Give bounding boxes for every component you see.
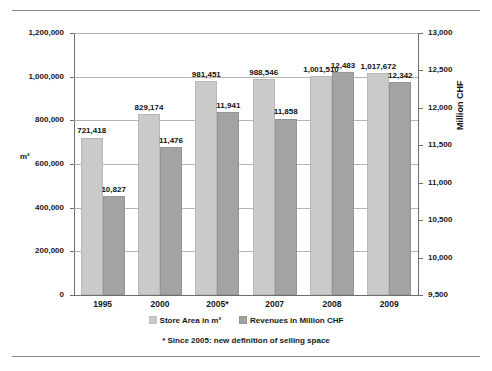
bar-label-revenues: 10,827 bbox=[84, 185, 144, 194]
bar-label-store-area: 1,017,672 bbox=[343, 62, 413, 71]
right-axis-tick-label: 11,000 bbox=[428, 178, 488, 187]
right-axis-tick-label: 11,500 bbox=[428, 140, 488, 149]
bar-label-revenues: 12,342 bbox=[370, 71, 430, 80]
bar-revenues bbox=[275, 119, 297, 296]
right-axis-tick-label: 10,500 bbox=[428, 215, 488, 224]
left-axis-tick bbox=[70, 164, 74, 165]
left-axis-tick-label: 200,000 bbox=[4, 246, 64, 255]
x-axis-tick-label: 2007 bbox=[245, 299, 305, 309]
left-axis-tick bbox=[70, 33, 74, 34]
left-axis-tick-label: 0 bbox=[4, 290, 64, 299]
chart-figure: m² Million CHF 0200,000400,000600,000800… bbox=[0, 0, 492, 371]
x-axis-tick-label: 2008 bbox=[302, 299, 362, 309]
bar-revenues bbox=[160, 147, 182, 295]
bar-revenues bbox=[217, 112, 239, 295]
legend-item: Revenues in Million CHF bbox=[239, 316, 343, 325]
x-axis-tick-label: 2005* bbox=[187, 299, 247, 309]
legend-label: Store Area in m² bbox=[160, 316, 222, 325]
x-axis-tick-label: 2000 bbox=[130, 299, 190, 309]
right-axis-tick-label: 13,000 bbox=[428, 28, 488, 37]
chart-legend: Store Area in m²Revenues in Million CHF bbox=[0, 316, 492, 325]
bar-revenues bbox=[332, 72, 354, 295]
left-axis-tick bbox=[70, 77, 74, 78]
left-axis-tick bbox=[70, 208, 74, 209]
bar-label-revenues: 11,858 bbox=[256, 107, 316, 116]
right-axis-tick bbox=[419, 258, 423, 259]
right-axis-tick bbox=[419, 220, 423, 221]
bar-label-revenues: 11,941 bbox=[198, 101, 258, 110]
gridline bbox=[74, 33, 418, 34]
bar-store-area bbox=[195, 81, 217, 295]
left-axis-tick bbox=[70, 251, 74, 252]
bar-store-area bbox=[81, 138, 103, 296]
bar-store-area bbox=[367, 73, 389, 295]
figure-bottom-rule bbox=[12, 356, 480, 357]
legend-swatch-icon bbox=[149, 316, 157, 324]
bar-label-revenues: 11,476 bbox=[141, 136, 201, 145]
left-axis-tick-label: 400,000 bbox=[4, 203, 64, 212]
bar-revenues bbox=[389, 82, 411, 295]
right-axis-tick bbox=[419, 145, 423, 146]
left-axis-tick-label: 1,000,000 bbox=[4, 72, 64, 81]
x-axis-tick-label: 2009 bbox=[359, 299, 419, 309]
right-axis-tick-label: 10,000 bbox=[428, 253, 488, 262]
chart-footnote: * Since 2005: new definition of selling … bbox=[0, 336, 492, 345]
right-axis-tick-label: 9,500 bbox=[428, 290, 488, 299]
plot-area: 721,41810,827829,17411,476981,45111,9419… bbox=[74, 33, 418, 295]
legend-swatch-icon bbox=[239, 316, 247, 324]
figure-top-rule bbox=[12, 10, 480, 11]
left-axis-tick bbox=[70, 295, 74, 296]
x-axis-tick-label: 1995 bbox=[73, 299, 133, 309]
right-axis-tick bbox=[419, 33, 423, 34]
right-axis-tick bbox=[419, 183, 423, 184]
right-axis-tick bbox=[419, 108, 423, 109]
left-axis-tick-label: 800,000 bbox=[4, 115, 64, 124]
bar-label-store-area: 721,418 bbox=[57, 126, 127, 135]
bar-revenues bbox=[103, 196, 125, 295]
bar-label-store-area: 829,174 bbox=[114, 103, 184, 112]
legend-item: Store Area in m² bbox=[149, 316, 222, 325]
left-axis-tick-label: 600,000 bbox=[4, 159, 64, 168]
left-axis-tick bbox=[70, 120, 74, 121]
right-axis-tick-label: 12,000 bbox=[428, 103, 488, 112]
x-axis-line bbox=[74, 295, 419, 296]
right-axis-tick bbox=[419, 295, 423, 296]
right-axis-tick-label: 12,500 bbox=[428, 65, 488, 74]
left-axis-tick-label: 1,200,000 bbox=[4, 28, 64, 37]
legend-label: Revenues in Million CHF bbox=[250, 316, 343, 325]
